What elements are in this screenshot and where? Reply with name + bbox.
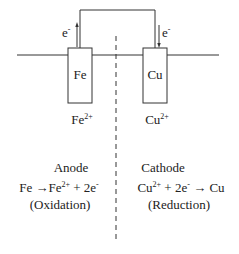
reactant-ion-charge: 2+ [153, 180, 162, 189]
ion-symbol: Cu [145, 112, 160, 127]
electron-down-arrow-icon [157, 25, 160, 48]
anode-process: (Oxidation) [30, 198, 91, 212]
ion-charge: 2+ [84, 112, 93, 121]
reaction-arrow-icon: → [193, 180, 206, 195]
electron-charge: - [96, 180, 99, 189]
product: Cu [209, 180, 224, 195]
external-wire [80, 10, 155, 48]
electron-charge: - [68, 25, 71, 34]
anode-ion-label: Fe2+ [71, 113, 93, 127]
electron-label-left: e- [62, 26, 70, 40]
ion-charge: 2+ [160, 112, 169, 121]
electron-label-right: e- [162, 26, 170, 40]
product-ion: Fe [48, 180, 61, 195]
anode-heading: Anode [54, 161, 89, 175]
reactant-ion: Cu [137, 180, 152, 195]
anode-electrode-label: Fe [74, 68, 87, 82]
reactant: Fe [19, 180, 32, 195]
electron-charge: - [187, 180, 190, 189]
electrons: 2e [84, 180, 96, 195]
cathode-electrode-label: Cu [147, 68, 162, 82]
electron-charge: - [168, 25, 171, 34]
cathode-process: (Reduction) [148, 198, 210, 212]
ion-symbol: Fe [71, 112, 84, 127]
plus-sign: + [164, 180, 171, 195]
cathode-heading: Cathode [141, 161, 184, 175]
electrons: 2e [175, 180, 187, 195]
plus-sign: + [73, 180, 80, 195]
anode-reaction: Fe →Fe2+ + 2e- [19, 181, 99, 195]
cathode-reaction: Cu2+ + 2e- → Cu [137, 181, 224, 195]
cathode-ion-label: Cu2+ [145, 113, 169, 127]
cell-diagram [0, 0, 239, 254]
reaction-arrow-icon: → [35, 180, 48, 195]
product-ion-charge: 2+ [61, 180, 70, 189]
electron-up-arrow-icon [75, 22, 78, 47]
